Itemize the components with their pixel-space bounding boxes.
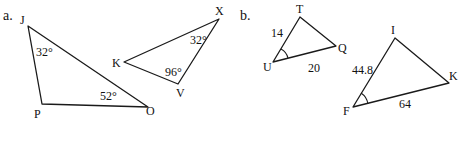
similar-triangles-diagram: a. J P O 32° 52° X K V 32° 96° b. T U Q … xyxy=(0,0,459,143)
angle-O-measure: 52° xyxy=(100,89,117,103)
triangle-JPO-edges xyxy=(28,26,148,107)
side-FK-length: 64 xyxy=(399,97,411,111)
triangle-XKV: X K V 32° 96° xyxy=(112,4,224,100)
vertex-Q-label: Q xyxy=(338,41,347,55)
triangle-IFK: I F K 44.8 64 xyxy=(343,23,458,118)
vertex-J-label: J xyxy=(20,13,25,27)
part-b-label: b. xyxy=(240,8,251,23)
vertex-F-label: F xyxy=(343,104,350,118)
side-UT-length: 14 xyxy=(271,26,283,40)
part-b: b. T U Q 14 20 I F K 44.8 64 xyxy=(240,2,458,118)
angle-J-measure: 32° xyxy=(36,45,53,59)
triangle-TUQ: T U Q 14 20 xyxy=(263,2,347,75)
angle-U-arc-marker xyxy=(281,49,288,58)
vertex-K-label: K xyxy=(112,56,121,70)
side-UQ-length: 20 xyxy=(308,61,320,75)
vertex-U-label: U xyxy=(263,60,272,74)
vertex-V-label: V xyxy=(176,86,185,100)
side-FI-length: 44.8 xyxy=(352,63,373,77)
angle-V-measure: 96° xyxy=(165,65,182,79)
vertex-K2-label: K xyxy=(449,69,458,83)
angle-X-measure: 32° xyxy=(190,33,207,47)
vertex-O-label: O xyxy=(146,104,155,118)
vertex-I-label: I xyxy=(391,23,395,37)
vertex-T-label: T xyxy=(296,2,304,16)
part-a: a. J P O 32° 52° X K V 32° 96° xyxy=(3,4,224,121)
vertex-P-label: P xyxy=(34,107,41,121)
part-a-label: a. xyxy=(3,8,13,23)
angle-F-arc-marker xyxy=(361,93,368,104)
vertex-X-label: X xyxy=(215,4,224,18)
